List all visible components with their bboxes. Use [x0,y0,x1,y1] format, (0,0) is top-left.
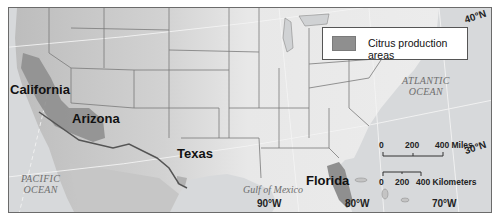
lon-70w-label: 70°W [432,198,457,209]
gulf-of-mexico-label: Gulf of Mexico [243,184,303,195]
pacific-line2: OCEAN [21,184,60,195]
map-frame: Citrus production areas California Arizo… [8,7,492,213]
state-label-texas: Texas [177,146,213,161]
map-legend: Citrus production areas [322,27,468,60]
state-label-arizona: Arizona [72,111,120,126]
pacific-line1: PACIFIC [21,173,60,184]
pacific-ocean-label: PACIFIC OCEAN [21,173,60,195]
atlantic-line1: ATLANTIC [402,75,450,86]
scale-km-200: 200 [395,177,409,187]
lon-90w-label: 90°W [257,198,282,209]
scale-km-0: 0 [379,177,384,187]
state-label-california: California [10,82,70,97]
legend-label: Citrus production areas [368,37,467,61]
scale-miles-200: 200 [405,140,419,150]
scale-miles-400: 400 Miles [435,140,473,150]
atlantic-line2: OCEAN [402,86,450,97]
scale-km-400: 400 Kilometers [416,177,476,187]
lon-80w-label: 80°W [345,198,370,209]
citrus-swatch [332,36,356,51]
atlantic-ocean-label: ATLANTIC OCEAN [402,75,450,97]
scale-miles-0: 0 [379,140,384,150]
state-label-florida: Florida [306,173,349,188]
